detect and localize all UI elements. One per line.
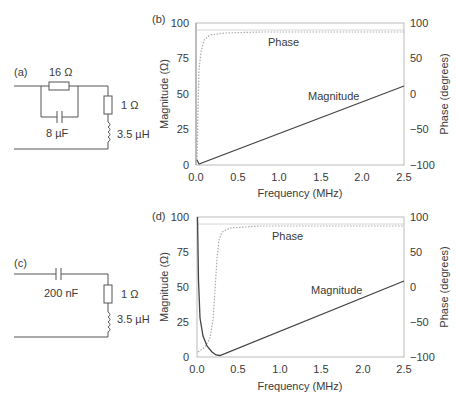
- xtick: 0.0: [189, 363, 204, 375]
- ytick-left: 50: [177, 281, 189, 293]
- panel-label-b: (b): [152, 13, 165, 25]
- ytick-right: −50: [410, 123, 429, 135]
- resistor-1-label-a: 1 Ω: [121, 99, 138, 111]
- ytick-left: 0: [183, 351, 189, 363]
- ytick-right: −50: [410, 316, 429, 328]
- resistor-1-label-c: 1 Ω: [121, 288, 138, 300]
- xtick: 2.5: [396, 171, 411, 183]
- plot-b: (b) 0 25 50 75 100 −100 −50 0 50 100 0.0…: [152, 13, 450, 199]
- ytick-left: 0: [183, 159, 189, 171]
- x-axis-label: Frequency (MHz): [258, 187, 343, 199]
- plot-d: (d) 0 25 50 75 100 −100 −50 0 50 100 0.0…: [152, 210, 450, 392]
- ytick-right: 100: [410, 17, 428, 29]
- ytick-right: 0: [410, 281, 416, 293]
- ytick-right: 100: [410, 211, 428, 223]
- ytick-right: 50: [410, 52, 422, 64]
- ytick-left: 100: [171, 17, 189, 29]
- panel-label-c: (c): [14, 257, 27, 269]
- capacitor-8uf-label: 8 µF: [46, 127, 69, 139]
- xtick: 0.5: [230, 363, 245, 375]
- phase-curve: [198, 226, 404, 352]
- inductor-label-c: 3.5 µH: [117, 313, 150, 325]
- y-axis-label-left: Magnitude (Ω): [158, 252, 170, 322]
- inductor-label-a: 3.5 µH: [117, 128, 150, 140]
- xtick: 2.0: [354, 171, 369, 183]
- y-axis-label-left: Magnitude (Ω): [158, 59, 170, 129]
- ytick-right: −100: [410, 159, 435, 171]
- panel-label-d: (d): [152, 210, 165, 222]
- ytick-left: 50: [177, 88, 189, 100]
- ytick-left: 75: [177, 52, 189, 64]
- capacitor-200nf-label: 200 nF: [44, 287, 79, 299]
- xtick: 1.5: [313, 363, 328, 375]
- ytick-left: 75: [177, 246, 189, 258]
- xtick: 0.0: [188, 171, 203, 183]
- ytick-right: 0: [410, 88, 416, 100]
- resistor-16-label: 16 Ω: [49, 66, 73, 78]
- panel-label-a: (a): [14, 66, 27, 78]
- figure-canvas: (a) 16 Ω 8 µF 1 Ω 3.5 µH (c) 200 nF 1 Ω …: [0, 0, 458, 402]
- ytick-left: 25: [177, 316, 189, 328]
- circuit-c: [14, 268, 112, 337]
- x-axis-label: Frequency (MHz): [258, 380, 343, 392]
- y-axis-label-right: Phase (degrees): [438, 246, 450, 327]
- magnitude-annotation: Magnitude: [308, 90, 359, 102]
- magnitude-curve: [197, 86, 404, 164]
- xtick: 2.0: [355, 363, 370, 375]
- ytick-left: 25: [177, 123, 189, 135]
- xtick: 1.5: [313, 171, 328, 183]
- phase-annotation: Phase: [272, 230, 303, 242]
- ytick-left: 100: [171, 211, 189, 223]
- xtick: 1.0: [271, 171, 286, 183]
- ytick-right: −100: [410, 351, 435, 363]
- phase-curve: [197, 32, 404, 160]
- y-axis-label-right: Phase (degrees): [438, 53, 450, 134]
- ytick-right: 50: [410, 246, 422, 258]
- xtick: 1.0: [272, 363, 287, 375]
- xtick: 2.5: [396, 363, 411, 375]
- magnitude-annotation: Magnitude: [311, 284, 362, 296]
- xtick: 0.5: [230, 171, 245, 183]
- phase-annotation: Phase: [268, 36, 299, 48]
